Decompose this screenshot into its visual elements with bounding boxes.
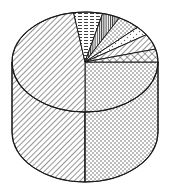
- chart-canvas: [0, 0, 169, 191]
- pie-top-face: [12, 12, 158, 112]
- cylinder-pie-chart: [0, 0, 169, 191]
